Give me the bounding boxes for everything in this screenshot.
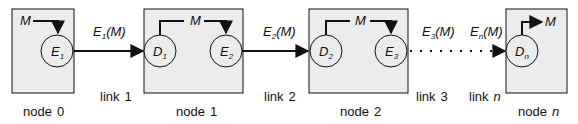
link-3-signal: E3(M) <box>422 24 455 41</box>
node-n-message-label: M <box>545 14 556 29</box>
link-n-signal: En(M) <box>470 24 503 41</box>
link-3-label: link3 <box>416 89 448 104</box>
link-n-label: linkn <box>469 89 501 104</box>
node-1: D1 E2 M node1 <box>144 9 243 119</box>
node-2: D2 E3 M node2 <box>309 9 408 119</box>
link-1: E1(M) link1 <box>73 24 143 104</box>
node-2-label: node2 <box>340 104 381 119</box>
node-1-label: node1 <box>176 104 217 119</box>
node-n-label: noden <box>518 104 559 119</box>
link-2-label: link2 <box>264 89 296 104</box>
link-1-signal: E1(M) <box>93 24 126 41</box>
node-0: M E1 <box>12 9 74 93</box>
node-2-message-label: M <box>355 13 366 28</box>
link-2-signal: E2(M) <box>263 24 296 41</box>
link-3-to-n: E3(M) En(M) link3 linkn <box>410 24 505 104</box>
link-1-label: link1 <box>100 89 132 104</box>
node-0-label: node0 <box>23 104 64 119</box>
link-2: E2(M) link2 <box>242 24 308 104</box>
relay-chain-diagram: M E1 E1(M) link1 D1 E2 M node1 E2(M) lin… <box>0 0 578 124</box>
node-1-message-label: M <box>190 13 201 28</box>
node-n: Dn M noden <box>506 9 567 119</box>
node-0-message-label: M <box>20 13 31 28</box>
